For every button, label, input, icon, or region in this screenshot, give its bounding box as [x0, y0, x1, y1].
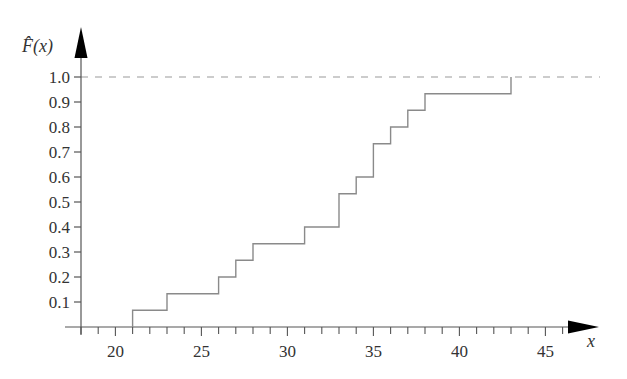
x-tick-label: 30 — [279, 342, 296, 361]
y-axis-arrow-icon — [75, 27, 88, 58]
y-tick-label: 0.2 — [49, 268, 70, 287]
y-tick-label: 0.3 — [49, 243, 70, 262]
y-axis-title: F̂(x) — [21, 36, 53, 57]
x-tick-label: 25 — [193, 342, 210, 361]
ecdf-chart: 0.10.20.30.40.50.60.70.80.91.0 202530354… — [0, 0, 627, 379]
y-tick-label: 0.1 — [49, 293, 70, 312]
x-tick-label: 40 — [451, 342, 468, 361]
x-tick-label: 45 — [537, 342, 554, 361]
y-tick-label: 0.7 — [49, 143, 71, 162]
y-tick-label: 0.5 — [49, 193, 70, 212]
y-tick-label: 0.6 — [49, 168, 70, 187]
y-tick-label: 0.9 — [49, 93, 70, 112]
y-tick-label: 1.0 — [49, 68, 70, 87]
y-tick-label: 0.4 — [49, 218, 71, 237]
ecdf-step-line — [133, 77, 511, 327]
x-tick-label: 20 — [107, 342, 124, 361]
y-tick-label: 0.8 — [49, 118, 70, 137]
x-tick-label: 35 — [365, 342, 382, 361]
x-axis-title: x — [586, 331, 595, 351]
y-axis: 0.10.20.30.40.50.60.70.80.91.0 — [49, 55, 81, 335]
x-axis: 202530354045 — [65, 327, 570, 361]
